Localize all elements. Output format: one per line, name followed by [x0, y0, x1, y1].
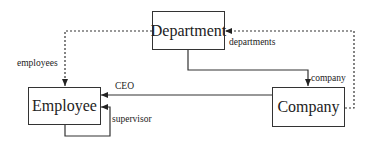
- entity-label: Company: [277, 98, 339, 116]
- label-supervisor: supervisor: [112, 115, 152, 125]
- label-employees: employees: [17, 59, 58, 69]
- entity-label: Employee: [32, 97, 97, 115]
- entity-label: Department: [151, 22, 227, 40]
- label-company: company: [311, 74, 346, 84]
- edge-employees: [65, 31, 152, 86]
- label-departments: departments: [229, 38, 275, 48]
- entity-company[interactable]: Company: [272, 87, 345, 127]
- entity-employee[interactable]: Employee: [28, 87, 101, 125]
- edge-company: [188, 50, 308, 86]
- label-ceo: CEO: [115, 82, 134, 92]
- entity-department[interactable]: Department: [152, 11, 225, 50]
